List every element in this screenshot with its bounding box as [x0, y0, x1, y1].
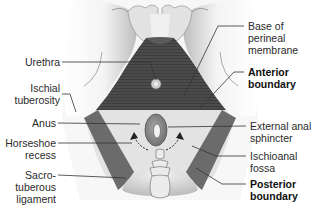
perineum-diagram: Urethra Ischial tuberosity Anus Horsesho…	[0, 0, 314, 214]
label-base-perineal-membrane: Base of perineal membrane	[248, 20, 298, 56]
label-posterior-boundary: Posterior boundary	[250, 178, 298, 202]
label-ischial-tuberosity: Ischial tuberosity	[4, 82, 60, 106]
label-sacrotuberous-ligament: Sacro- tuberous ligament	[2, 169, 56, 205]
label-external-anal-sphincter: External anal sphincter	[250, 120, 311, 144]
label-horseshoe-recess: Horseshoe recess	[2, 137, 56, 161]
label-anterior-boundary: Anterior boundary	[248, 66, 296, 90]
label-anus: Anus	[4, 117, 56, 129]
label-urethra: Urethra	[6, 56, 60, 68]
label-ischioanal-fossa: Ischioanal fossa	[250, 150, 297, 174]
